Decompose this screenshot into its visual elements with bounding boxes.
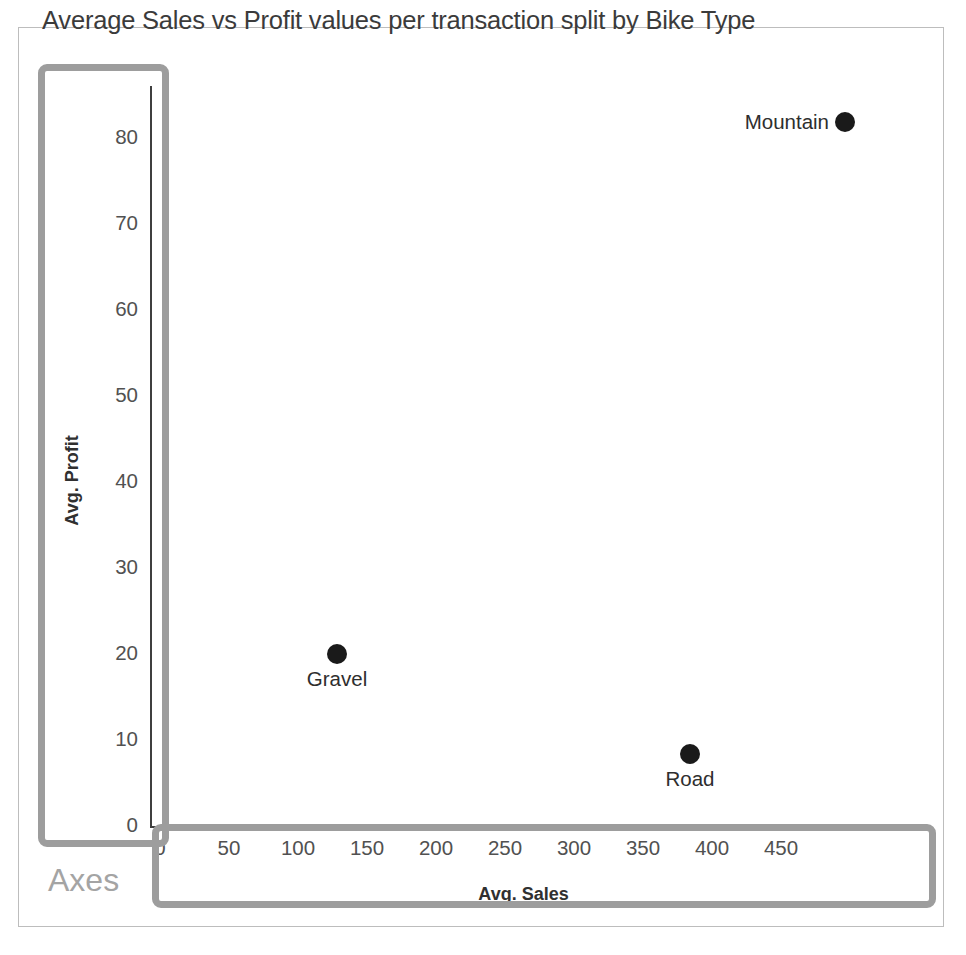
annotation-label-axes: Axes [48,862,119,899]
annotation-box-y-axis [38,64,169,847]
annotation-box-x-axis [152,824,936,908]
chart-title: Average Sales vs Profit values per trans… [42,6,755,35]
